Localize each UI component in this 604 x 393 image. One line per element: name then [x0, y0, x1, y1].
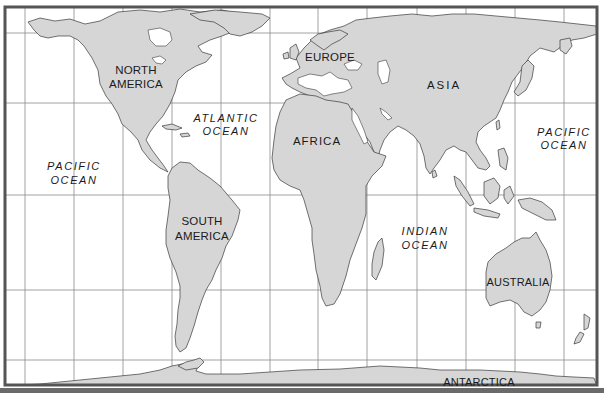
label-asia: ASIA: [427, 79, 461, 91]
label-antarctica: ANTARCTICA: [443, 376, 515, 388]
world-map: NORTHAMERICA SOUTHAMERICA EUROPE AFRICA …: [0, 0, 604, 393]
label-pacific-ocean-east: PACIFICOCEAN: [537, 126, 591, 151]
tasmania-island: [536, 322, 541, 328]
label-atlantic-ocean: ATLANTICOCEAN: [192, 112, 258, 137]
taiwan-island: [496, 120, 500, 130]
label-africa: AFRICA: [293, 135, 341, 147]
hispaniola-island: [180, 133, 190, 137]
label-australia: AUSTRALIA: [487, 276, 550, 288]
bottom-edge-strip: [0, 388, 604, 393]
label-europe: EUROPE: [305, 51, 355, 63]
map-canvas: NORTHAMERICA SOUTHAMERICA EUROPE AFRICA …: [0, 0, 604, 393]
